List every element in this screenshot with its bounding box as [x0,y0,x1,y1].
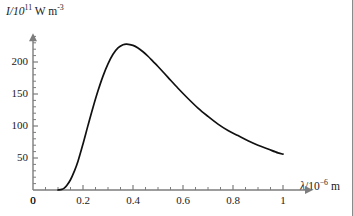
y-tick-label: 200 [2,55,28,67]
x-tick-label: 1 [263,194,303,206]
axis-lines [29,33,313,194]
y-tick-label: 100 [2,119,28,131]
y-tick-label: 50 [2,151,28,163]
plot-area [0,0,353,216]
x-tick-label: 0.8 [213,194,253,206]
x-tick-label: 0.6 [163,194,203,206]
data-curve [58,44,283,190]
x-tick-label: 0.4 [113,194,153,206]
chart-figure: I/1011 W m-3 λ/10−6 m 00.20.40.60.810501… [0,0,353,216]
y-tick-label: 150 [2,87,28,99]
y-tick-label: 0 [26,194,40,206]
x-tick-label: 0.2 [63,194,103,206]
axis-ticks [33,36,283,190]
